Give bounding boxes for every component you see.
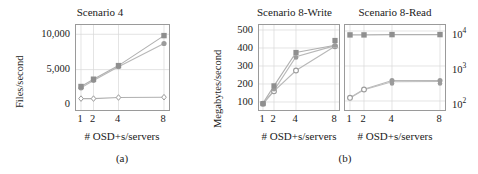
- gridlines: [345, 25, 445, 110]
- y-tick-300: 300: [214, 60, 253, 71]
- y-tick-100: 100: [214, 96, 253, 107]
- plot-area-scenario-4: [75, 24, 170, 111]
- y-tick-5000: 5,000: [18, 63, 70, 74]
- plot-svg-scenario-8-write: [259, 25, 339, 110]
- x-tick-4: 4: [388, 113, 393, 124]
- y-tick-0: 0: [18, 98, 70, 109]
- series-square-markers: [78, 33, 166, 89]
- chart-title-scenario-8-read: Scenario 8-Read: [340, 6, 450, 18]
- figure-container: Scenario 4 Files/second 10,000 5,000 0: [0, 0, 478, 174]
- chart-title-scenario-4: Scenario 4: [0, 6, 200, 18]
- x-tick-8: 8: [436, 113, 441, 124]
- y-tick-10e2: 102: [452, 96, 466, 110]
- series-circle-markers: [261, 44, 338, 106]
- plot-svg-scenario-8-read: [345, 25, 445, 110]
- panel-scenario-8-read: Scenario 8-Read: [340, 0, 478, 174]
- x-tick-8: 8: [160, 113, 165, 124]
- chart-title-scenario-8-write: Scenario 8-Write: [242, 6, 347, 18]
- plot-area-scenario-8-write: [258, 24, 340, 111]
- gridlines: [259, 25, 339, 110]
- x-axis-label-scenario-4: # OSD+s/servers: [85, 130, 160, 142]
- subcaption-a: (a): [116, 152, 128, 164]
- panel-scenario-4: Scenario 4 Files/second 10,000 5,000 0: [0, 0, 200, 174]
- x-tick-1: 1: [259, 113, 264, 124]
- x-tick-4: 4: [292, 113, 297, 124]
- x-tick-8: 8: [331, 113, 336, 124]
- y-tick-10e4: 104: [452, 26, 466, 40]
- x-tick-4: 4: [115, 113, 120, 124]
- y-tick-10e3: 103: [452, 61, 466, 75]
- plot-svg-scenario-4: [76, 25, 169, 110]
- x-tick-2: 2: [90, 113, 95, 124]
- x-tick-2: 2: [360, 113, 365, 124]
- x-tick-2: 2: [270, 113, 275, 124]
- panel-scenario-8-write: Scenario 8-Write Megabytes/second 500 40…: [200, 0, 340, 174]
- y-tick-10000: 10,000: [18, 28, 70, 39]
- x-tick-1: 1: [346, 113, 351, 124]
- x-axis-label-scenario-8-write: # OSD+s/servers: [262, 130, 337, 142]
- y-tick-500: 500: [214, 24, 253, 35]
- plot-area-scenario-8-read: [344, 24, 446, 111]
- y-tick-400: 400: [214, 42, 253, 53]
- x-axis-label-scenario-8-read: # OSD+s/servers: [358, 130, 433, 142]
- y-tick-200: 200: [214, 78, 253, 89]
- x-tick-1: 1: [77, 113, 82, 124]
